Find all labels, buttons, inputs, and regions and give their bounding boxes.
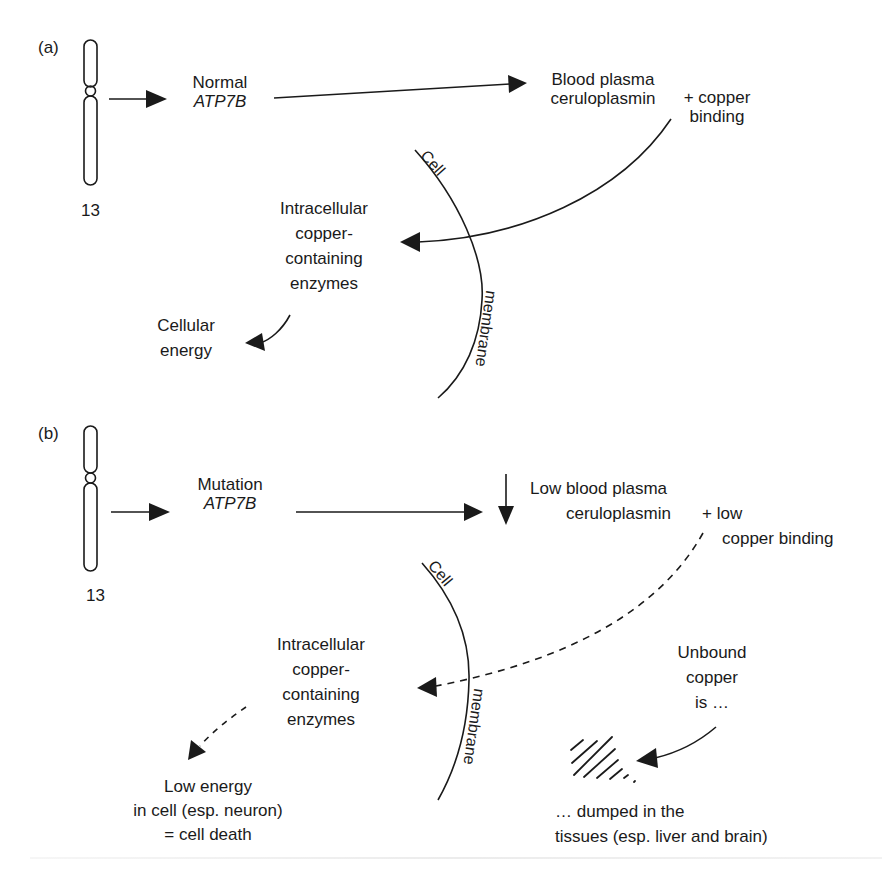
enzymes-label-a: Intracellular copper- containing enzymes	[265, 196, 383, 296]
plasma-label-a: Blood plasma ceruloplasmin	[533, 70, 673, 108]
copper-binding-line-b: copper binding	[722, 529, 834, 548]
enzymes-line-2: copper-	[265, 221, 383, 246]
wilson-disease-diagram: (a) 13 Normal ATP7B Blood plasma cerulop…	[0, 0, 882, 877]
dumped-line-1: … dumped in the	[555, 799, 768, 824]
outcome-line-2: in cell (esp. neuron)	[113, 799, 303, 823]
arrow-gene-to-plasma-b	[296, 503, 483, 521]
dumped-line-2: tissues (esp. liver and brain)	[555, 824, 768, 849]
arrow-gene-to-plasma-a	[274, 75, 527, 98]
enzymes-line-4: enzymes	[265, 271, 383, 296]
unbound-line-2: copper	[662, 665, 762, 690]
outcome-line-1: Low energy	[113, 775, 303, 799]
outcome-label-b: Low energy in cell (esp. neuron) = cell …	[113, 775, 303, 847]
arrow-unbound-to-tissue-b	[636, 727, 716, 768]
unbound-copper-label: Unbound copper is …	[662, 640, 762, 715]
plasma-line-1-b: Low blood plasma	[530, 479, 667, 498]
chromosome-number-a: 13	[81, 201, 100, 221]
enzymes-line-1: Intracellular	[262, 632, 380, 657]
chromosome-13-icon-a	[84, 40, 97, 185]
arrow-chromosome-to-gene-a	[109, 90, 167, 108]
plasma-line-2-b: ceruloplasmin	[566, 504, 671, 523]
enzymes-line-3: containing	[265, 246, 383, 271]
dashed-arrow-enzymes-to-outcome-b	[188, 707, 246, 760]
arrow-plasma-to-enzymes-a	[400, 119, 671, 252]
enzymes-line-1: Intracellular	[265, 196, 383, 221]
outcome-label-a: Cellular energy	[148, 313, 224, 363]
gene-label-a: Normal ATP7B	[180, 73, 260, 111]
enzymes-line-3: containing	[262, 682, 380, 707]
dashed-arrow-plasma-to-enzymes-b	[417, 533, 703, 697]
unbound-line-3: is …	[662, 690, 762, 715]
copper-deposit-hatch-icon	[571, 737, 635, 782]
gene-name-text: ATP7B	[180, 92, 260, 111]
gene-state-text: Mutation	[185, 475, 275, 494]
page-edge-divider	[30, 857, 882, 859]
arrow-chromosome-to-gene-b	[111, 503, 170, 521]
decrease-down-arrow-icon	[498, 474, 514, 525]
plasma-plus-b: + low	[702, 504, 742, 523]
copper-binding-line-2: binding	[677, 107, 757, 126]
copper-binding-label-a: + copper binding	[677, 88, 757, 126]
panel-label-a: (a)	[38, 38, 59, 58]
outcome-line-3: = cell death	[113, 823, 303, 847]
chromosome-number-b: 13	[86, 586, 105, 606]
plasma-line-2: ceruloplasmin	[533, 89, 673, 108]
plasma-line-1: Blood plasma	[533, 70, 673, 89]
copper-binding-line-1: + copper	[677, 88, 757, 107]
unbound-line-1: Unbound	[662, 640, 762, 665]
diagram-graphics	[0, 0, 882, 877]
chromosome-13-icon-b	[84, 426, 97, 571]
enzymes-line-2: copper-	[262, 657, 380, 682]
arrow-enzymes-to-energy-a	[245, 315, 290, 351]
panel-label-b: (b)	[38, 424, 59, 444]
outcome-line-2: energy	[148, 338, 224, 363]
enzymes-label-b: Intracellular copper- containing enzymes	[262, 632, 380, 732]
gene-name-text: ATP7B	[185, 494, 275, 513]
enzymes-line-4: enzymes	[262, 707, 380, 732]
dumped-in-tissues-label: … dumped in the tissues (esp. liver and …	[555, 799, 768, 849]
outcome-line-1: Cellular	[148, 313, 224, 338]
gene-state-text: Normal	[180, 73, 260, 92]
gene-label-b: Mutation ATP7B	[185, 475, 275, 513]
